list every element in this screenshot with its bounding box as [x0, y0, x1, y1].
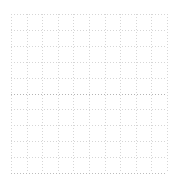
chart-title [0, 0, 1, 1]
series-layer [11, 14, 167, 173]
chart-y-axis-label [0, 0, 1, 1]
chart-canvas [0, 0, 180, 183]
plot-area[interactable] [11, 14, 167, 173]
axis-baseline [11, 173, 167, 174]
chart-x-axis-label [0, 0, 1, 1]
gridline-vertical [167, 14, 168, 173]
